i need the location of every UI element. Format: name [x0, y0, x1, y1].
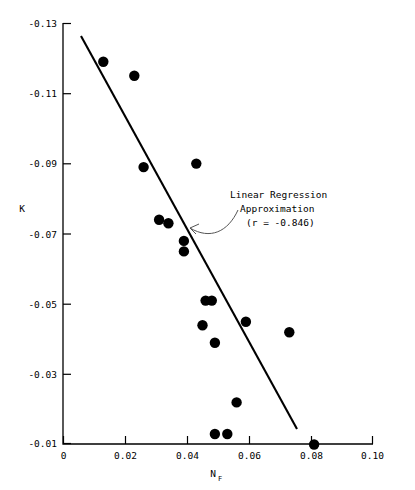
- x-axis-title: N F: [210, 468, 222, 483]
- data-point: [138, 162, 148, 172]
- data-point: [231, 397, 241, 407]
- data-point: [163, 218, 173, 228]
- x-tick-label: 0: [61, 450, 67, 461]
- x-tick-label: 0.04: [176, 450, 199, 461]
- annotation-line-3: (r = -0.846): [246, 217, 315, 228]
- y-tick-label: -0.13: [28, 18, 57, 29]
- x-axis-title-subscript: F: [218, 475, 222, 483]
- data-point: [309, 439, 319, 449]
- y-tick-label: -0.07: [28, 229, 57, 240]
- data-points-group: [98, 57, 319, 450]
- data-point: [179, 236, 189, 246]
- scatter-chart: -0.13 -0.11 -0.09 -0.07 -0.05 -0.03 -0.0…: [0, 0, 415, 490]
- data-point: [207, 295, 217, 305]
- annotation-arrowhead-icon: [190, 224, 199, 234]
- data-point: [210, 429, 220, 439]
- data-point: [210, 338, 220, 348]
- x-tick-label: 0.06: [238, 450, 261, 461]
- y-tick-labels: -0.13 -0.11 -0.09 -0.07 -0.05 -0.03 -0.0…: [28, 18, 57, 449]
- y-axis-title: K: [19, 203, 25, 214]
- plot-canvas: -0.13 -0.11 -0.09 -0.07 -0.05 -0.03 -0.0…: [0, 0, 415, 490]
- y-tick-label: -0.03: [28, 369, 57, 380]
- data-point: [241, 317, 251, 327]
- data-point: [222, 429, 232, 439]
- data-point: [197, 320, 207, 330]
- data-point: [191, 158, 201, 168]
- annotation-line-1: Linear Regression: [230, 189, 327, 200]
- y-tick-label: -0.09: [28, 158, 57, 169]
- x-tick-label: 0.02: [114, 450, 137, 461]
- x-tick-label: 0.08: [300, 450, 323, 461]
- annotation-leader-line: [190, 210, 238, 234]
- x-axis-title-base: N: [210, 468, 216, 479]
- x-tick-labels: 0 0.02 0.04 0.06 0.08 0.10: [61, 450, 385, 461]
- y-tick-label: -0.11: [28, 88, 57, 99]
- data-point: [98, 57, 108, 67]
- y-tick-label: -0.01: [28, 438, 57, 449]
- annotation-line-2: Approximation: [240, 203, 314, 214]
- x-tick-label: 0.10: [361, 450, 384, 461]
- data-point: [154, 215, 164, 225]
- y-axis-ticks: [63, 24, 71, 444]
- data-point: [129, 71, 139, 81]
- data-point: [284, 327, 294, 337]
- y-tick-label: -0.05: [28, 299, 57, 310]
- linear-regression-line: [81, 36, 297, 429]
- regression-annotation: Linear Regression Approximation (r = -0.…: [230, 189, 327, 228]
- data-point: [179, 246, 189, 256]
